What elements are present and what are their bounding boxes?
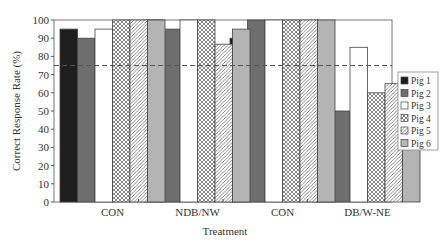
x-category-label: DB/W-NE <box>344 206 391 218</box>
x-category-label: CON <box>271 206 294 218</box>
y-tick-label: 80 <box>38 50 50 62</box>
legend-swatch <box>401 115 408 122</box>
bar <box>95 29 113 202</box>
legend-label: Pig 6 <box>411 139 431 149</box>
legend-label: Pig 3 <box>411 101 431 111</box>
bar <box>368 93 386 202</box>
y-tick-label: 30 <box>38 141 50 153</box>
legend-label: Pig 1 <box>411 76 431 86</box>
bar <box>215 44 233 202</box>
y-axis-title: Correct Response Rate (%) <box>10 51 23 171</box>
legend-swatch <box>401 90 408 97</box>
y-tick-label: 70 <box>38 69 50 81</box>
legend-label: Pig 4 <box>411 114 431 124</box>
bar <box>148 20 166 202</box>
y-tick-label: 100 <box>33 14 50 26</box>
legend-label: Pig 2 <box>411 89 431 99</box>
bar <box>265 20 283 202</box>
x-category-label: CON <box>101 206 124 218</box>
bar <box>78 38 96 202</box>
legend-label: Pig 5 <box>411 126 431 136</box>
legend-swatch <box>401 102 408 109</box>
y-tick-label: 40 <box>38 123 50 135</box>
y-tick-label: 10 <box>38 178 50 190</box>
bar <box>283 20 301 202</box>
legend: Pig 1Pig 2Pig 3Pig 4Pig 5Pig 6 <box>398 72 438 150</box>
bar <box>233 29 251 202</box>
legend-swatch <box>401 77 408 84</box>
legend-swatch <box>401 140 408 147</box>
bar <box>350 47 368 202</box>
bar <box>113 20 131 202</box>
y-tick-label: 50 <box>38 105 50 117</box>
x-category-label: NDB/NW <box>175 206 220 218</box>
bar <box>198 20 216 202</box>
bar <box>180 20 198 202</box>
y-tick-label: 0 <box>44 196 50 208</box>
y-tick-label: 90 <box>38 32 50 44</box>
legend-swatch <box>401 127 408 134</box>
y-tick-label: 60 <box>38 87 50 99</box>
x-axis-title: Treatment <box>203 225 248 237</box>
bar <box>130 20 148 202</box>
bar-chart: 0102030405060708090100 CONNDB/NWCONDB/W-… <box>0 0 444 244</box>
bar <box>318 20 336 202</box>
y-axis: 0102030405060708090100 <box>33 14 55 208</box>
bar <box>300 20 318 202</box>
bar <box>60 29 78 202</box>
y-tick-label: 20 <box>38 160 50 172</box>
plot-area <box>54 20 420 202</box>
